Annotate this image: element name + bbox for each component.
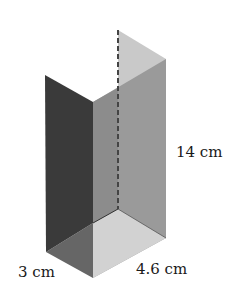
front-face xyxy=(93,88,118,223)
left-face xyxy=(45,75,93,252)
width-label: 3 cm xyxy=(18,265,55,280)
height-label: 14 cm xyxy=(176,145,222,160)
length-label: 4.6 cm xyxy=(136,262,187,277)
